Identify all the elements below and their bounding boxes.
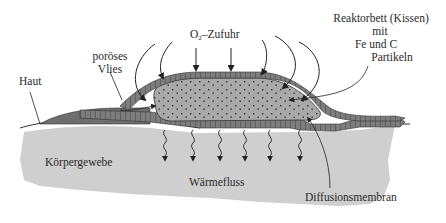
porous-fleece-label: poröses Vlies <box>82 50 138 76</box>
reactor-bed-label: Reaktorbett (Kissen) mit Fe und C Partik… <box>318 12 444 64</box>
o2-supply-label: O2–Zufuhr <box>190 28 240 45</box>
porous-fleece-label-line2: Vlies <box>82 63 138 76</box>
reactor-bed-label-line4: Partikeln <box>340 51 444 64</box>
reactor-bed-label-line1: Reaktorbett (Kissen) <box>318 12 444 25</box>
reactor-bed-label-line3: Fe und C <box>308 38 444 51</box>
heat-patch-diagram: Haut poröses Vlies O2–Zufuhr Reaktorbett… <box>0 0 446 223</box>
o2-suffix: –Zufuhr <box>202 28 240 40</box>
body-tissue-label: Körpergewebe <box>45 156 112 169</box>
reactor-bed-label-line2: mit <box>316 25 444 38</box>
porous-fleece-label-line1: poröses <box>82 50 138 63</box>
skin-label: Haut <box>19 75 41 88</box>
diffusion-membrane-label: Diffusionsmembran <box>305 191 397 204</box>
heat-flow-label: Wärmefluss <box>189 176 245 189</box>
